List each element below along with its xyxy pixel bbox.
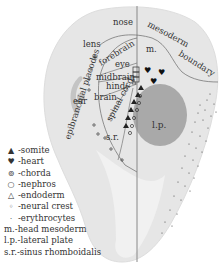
legend-item-somite: ▲ -somite [4,145,101,156]
legend-label: -endoderm [18,190,65,201]
label-nose: nose [113,17,133,27]
legend-item-nephros: ○ -nephros [4,179,101,190]
abbr: m. [4,224,15,235]
label-lp: l.p. [152,120,167,130]
legend-label: -sinus rhomboidalis [17,247,101,258]
legend-label: -erythrocytes [18,213,75,224]
legend-label: -neural crest [18,201,73,212]
legend-label: -heart [18,156,44,167]
label-m: m. [146,44,157,54]
nephros-icon: ○ [4,179,18,190]
chorda-icon: ⊚ [4,168,18,179]
erythrocyte-icon: · [4,213,18,224]
lateral-plate [133,84,187,146]
legend-abbr-sinus-rhomboidalis: s.r. -sinus rhomboidalis [4,247,101,258]
legend-abbr-lateral-plate: l.p. -lateral plate [4,235,101,246]
legend-label: -lateral plate [18,235,73,246]
label-eye: eye [115,59,130,69]
legend-item-heart: ♥ -heart [4,156,101,167]
label-sr: s.r. [106,132,119,142]
legend: ▲ -somite ♥ -heart ⊚ -chorda ○ -nephros … [4,145,101,258]
abbr: s.r. [4,247,17,258]
legend-item-endoderm: △ -endoderm [4,190,101,201]
legend-label: -head mesoderm [15,224,87,235]
legend-label: -nephros [18,179,56,190]
legend-item-erythrocytes: · -erythrocytes [4,213,101,224]
somite-icon: ▲ [4,145,18,156]
legend-label: -somite [18,145,50,156]
neural-crest-icon: ◦ [4,201,18,212]
label-lens: lens [83,39,101,49]
legend-abbr-head-mesoderm: m. -head mesoderm [4,224,101,235]
svg-text:♥: ♥ [144,66,151,75]
legend-item-neural-crest: ◦ -neural crest [4,201,101,212]
legend-item-chorda: ⊚ -chorda [4,168,101,179]
endoderm-icon: △ [4,190,18,201]
abbr: l.p. [4,235,18,246]
svg-text:♥: ♥ [158,68,165,77]
legend-label: -chorda [18,168,51,179]
heart-icon: ♥ [4,156,18,167]
svg-text:♥: ♥ [150,77,157,86]
